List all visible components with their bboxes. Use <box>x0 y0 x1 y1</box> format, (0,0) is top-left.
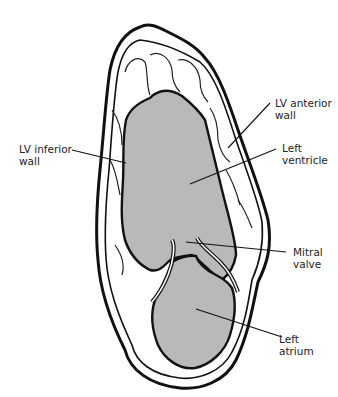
label-line: wall <box>19 155 72 167</box>
label-line: Mitral <box>293 246 323 258</box>
label-line: Left <box>279 333 314 345</box>
label-lv-inferior-wall: LV inferior wall <box>19 143 72 167</box>
label-line: valve <box>293 258 323 270</box>
label-line: LV inferior <box>19 143 72 155</box>
label-line: Left <box>282 142 328 154</box>
label-line: LV anterior <box>275 97 332 109</box>
label-left-ventricle: Left ventricle <box>282 142 328 166</box>
label-line: ventricle <box>282 154 328 166</box>
label-line: wall <box>275 109 332 121</box>
label-line: atrium <box>279 345 314 357</box>
label-lv-anterior-wall: LV anterior wall <box>275 97 332 121</box>
label-mitral-valve: Mitral valve <box>293 246 323 270</box>
label-left-atrium: Left atrium <box>279 333 314 357</box>
